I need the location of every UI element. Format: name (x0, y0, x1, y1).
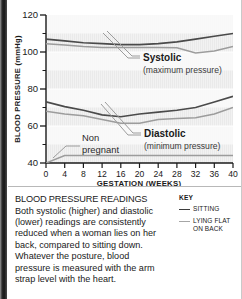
x-tick-label: 28 (172, 169, 182, 179)
chart-svg: 120 100 80 60 40 BLOOD PRESSURE (mmHg) (8, 0, 241, 186)
y-axis-title: BLOOD PRESSURE (mmHg) (13, 35, 22, 143)
key-item-lying-flat-on-back: LYING FLAT ON BACK (179, 217, 241, 233)
page-left-spine (0, 0, 7, 299)
x-tick-label: 12 (97, 169, 107, 179)
caption-title: BLOOD PRESSURE READINGS (15, 194, 167, 205)
annotation-systolic-label: Systolic (143, 52, 182, 63)
annotation-systolic-sublabel: (maximum pressure) (143, 65, 222, 75)
page-right-rule (241, 0, 242, 299)
chart-key: KEY SITTING LYING FLAT ON BACK (179, 194, 241, 234)
blood-pressure-chart: 120 100 80 60 40 BLOOD PRESSURE (mmHg) (8, 0, 241, 186)
x-axis-ticks (46, 163, 233, 168)
y-tick-label: 120 (22, 9, 38, 20)
x-axis-tick-labels: 0 4 8 12 16 20 24 28 32 36 40 (44, 169, 238, 179)
x-tick-label: 16 (116, 169, 126, 179)
x-tick-label: 32 (191, 169, 201, 179)
x-tick-label: 8 (81, 169, 86, 179)
x-axis-title: GESTATION (WEEKS) (97, 179, 182, 186)
annotation-nonpregnant-line1: Non (82, 132, 99, 143)
x-tick-label: 4 (62, 169, 67, 179)
x-tick-label: 36 (210, 169, 220, 179)
y-tick-label: 80 (27, 83, 38, 94)
caption-block: BLOOD PRESSURE READINGS Both systolic (h… (8, 186, 241, 299)
y-tick-label: 40 (27, 157, 38, 168)
y-tick-label: 100 (22, 46, 38, 57)
annotation-diastolic-sublabel: (minimum pressure) (144, 141, 221, 151)
line-swatch-icon (179, 221, 190, 223)
x-tick-label: 40 (228, 169, 238, 179)
key-item-sitting: SITTING (179, 205, 241, 213)
annotation-diastolic-label: Diastolic (144, 128, 186, 139)
key-title: KEY (179, 194, 241, 201)
caption-body: Both systolic (higher) and diastolic (lo… (15, 206, 167, 286)
caption-text-column: BLOOD PRESSURE READINGS Both systolic (h… (15, 194, 167, 285)
key-item-label: SITTING (193, 205, 219, 213)
y-tick-label: 60 (27, 120, 38, 131)
line-swatch-icon (179, 209, 190, 211)
x-tick-label: 0 (44, 169, 49, 179)
key-item-label: LYING FLAT ON BACK (193, 217, 241, 233)
annotation-nonpregnant-line2: pregnant (82, 144, 119, 155)
y-axis-tick-labels: 120 100 80 60 40 (22, 9, 38, 168)
page-root: 120 100 80 60 40 BLOOD PRESSURE (mmHg) (0, 0, 242, 299)
x-tick-label: 20 (135, 169, 145, 179)
y-axis-major-ticks (40, 15, 46, 163)
x-tick-label: 24 (153, 169, 163, 179)
